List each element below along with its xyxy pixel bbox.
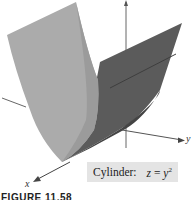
eq-lhs: z <box>147 166 151 178</box>
y-axis-label: y <box>186 133 190 144</box>
z-axis-arrow-icon <box>124 0 128 6</box>
x-axis-back <box>2 98 26 107</box>
surface-name: Cylinder: <box>93 166 136 178</box>
surface-label: Cylinder: z = y2 <box>87 162 178 182</box>
eq-sign: = <box>154 166 161 178</box>
x-axis-arrow-icon <box>33 176 41 182</box>
y-axis-arrow-icon <box>178 138 185 144</box>
figure-caption: FIGURE 11.58 <box>1 192 72 200</box>
surface-equation: z = y2 <box>147 166 172 179</box>
y-axis <box>122 130 182 140</box>
x-axis-label: x <box>25 178 29 189</box>
eq-exponent: 2 <box>168 166 172 174</box>
x-axis <box>36 162 70 180</box>
